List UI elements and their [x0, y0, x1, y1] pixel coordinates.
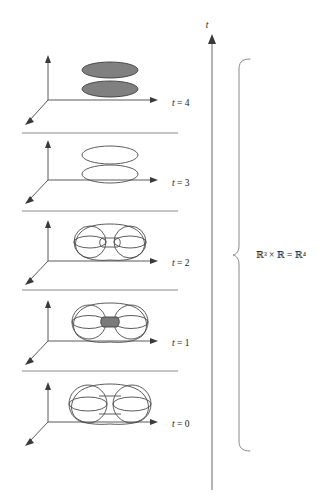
outer-silhouette — [76, 224, 145, 260]
diagram-canvas: t = 4 t = 3 — [0, 0, 328, 504]
time-axis-arrow-icon — [208, 34, 216, 44]
slice-label-t4: t = 4 — [172, 98, 190, 108]
horizontal-axis-arrow-icon — [150, 338, 158, 344]
diagonal-axis — [30, 100, 48, 120]
right-sphere-equator — [113, 397, 151, 411]
manifold-shape-t1 — [72, 303, 148, 342]
coordinate-axes-t3 — [25, 140, 158, 204]
brace-group: ℝ³ × ℝ = ℝ⁴ — [233, 59, 307, 451]
diagonal-axis-arrow-icon — [25, 277, 34, 285]
neck-shaded-band — [101, 317, 120, 327]
time-axis-group: t — [206, 20, 216, 490]
diagonal-axis-arrow-icon — [25, 357, 34, 365]
manifold-shape-t3 — [82, 146, 138, 183]
coordinate-axes-t2 — [25, 220, 158, 285]
diagonal-axis-arrow-icon — [25, 438, 34, 446]
vertical-axis-arrow-icon — [45, 382, 51, 390]
slice-label-t0: t = 0 — [172, 419, 190, 429]
slice-panel-t2: t = 2 — [25, 220, 190, 285]
left-sphere-equator — [69, 397, 107, 411]
vertical-axis-arrow-icon — [45, 55, 51, 63]
manifold-shape-t0 — [69, 384, 151, 424]
diagonal-axis — [30, 261, 48, 280]
outer-silhouette — [72, 384, 149, 424]
figure-root: t = 4 t = 3 — [0, 0, 328, 504]
slice-label-t3: t = 3 — [172, 178, 190, 188]
vertical-axis-arrow-icon — [45, 300, 51, 308]
left-sphere — [74, 226, 106, 258]
vertical-axis-arrow-icon — [45, 140, 51, 148]
filled-disk-upper — [82, 62, 138, 78]
horizontal-axis-arrow-icon — [150, 258, 158, 264]
diagonal-axis — [30, 341, 48, 360]
time-axis-label: t — [206, 20, 209, 30]
slice-panel-t3: t = 3 — [25, 140, 190, 204]
filled-disk-lower — [82, 81, 138, 97]
horizontal-axis-arrow-icon — [150, 97, 158, 103]
slice-panel-t0: t = 0 — [25, 382, 190, 446]
curly-brace-icon — [233, 59, 250, 451]
left-sphere — [69, 385, 107, 423]
diagonal-axis — [30, 180, 48, 199]
manifold-shape-t4 — [82, 62, 138, 97]
slice-label-t2: t = 2 — [172, 258, 190, 268]
right-sphere — [114, 226, 146, 258]
diagonal-axis-arrow-icon — [25, 117, 34, 125]
vertical-axis-arrow-icon — [45, 220, 51, 228]
right-sphere — [113, 385, 151, 423]
horizontal-axis-arrow-icon — [150, 419, 158, 425]
slice-panel-t1: t = 1 — [25, 300, 190, 365]
brace-label: ℝ³ × ℝ = ℝ⁴ — [256, 250, 307, 260]
manifold-shape-t2 — [74, 224, 146, 260]
open-ellipse-upper — [82, 146, 138, 164]
coordinate-axes-t0 — [25, 382, 158, 446]
slice-label-t1: t = 1 — [172, 338, 190, 348]
horizontal-axis-arrow-icon — [150, 177, 158, 183]
diagonal-axis — [30, 422, 48, 441]
slice-panel-t4: t = 4 — [25, 55, 190, 125]
diagonal-axis-arrow-icon — [25, 196, 34, 204]
